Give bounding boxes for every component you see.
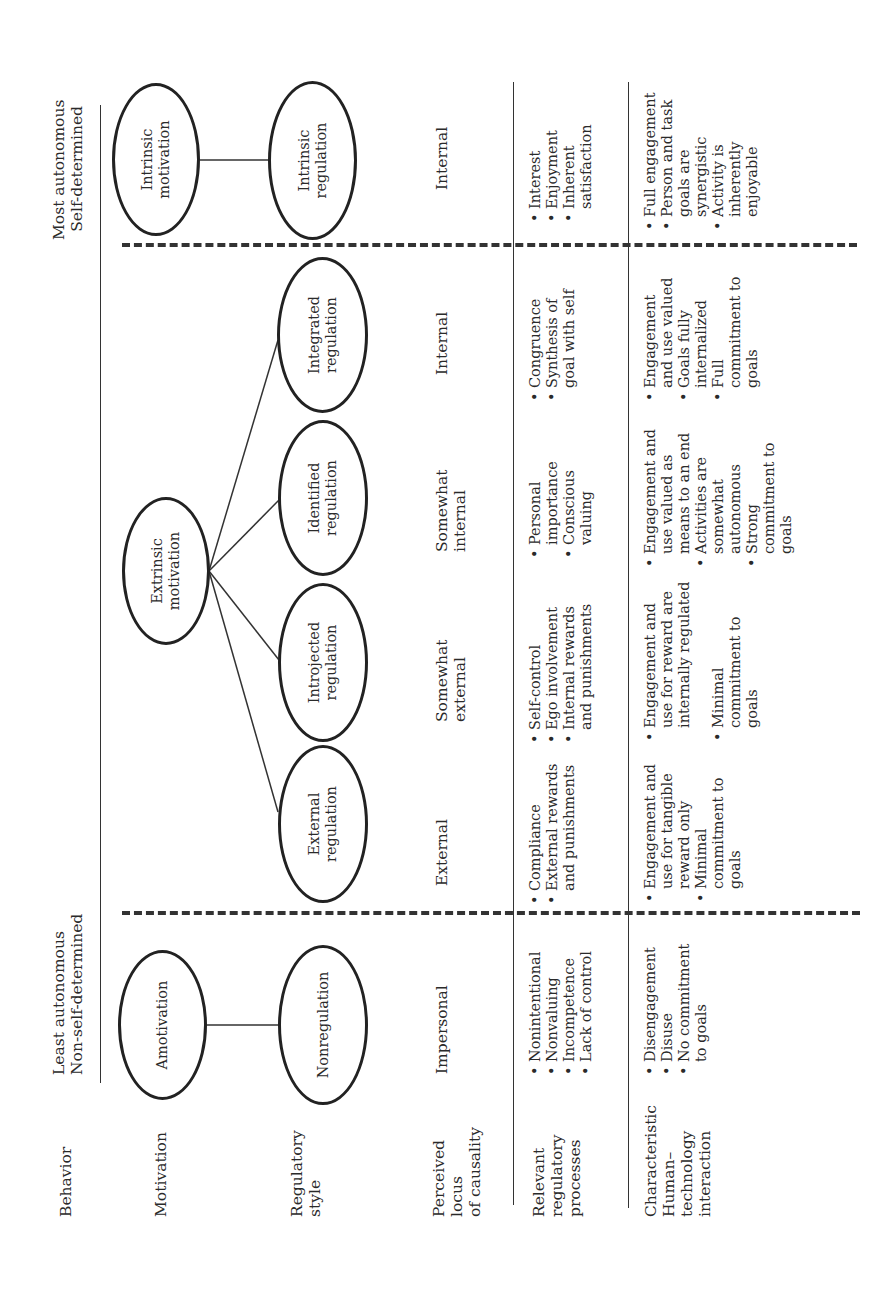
least-autonomous-label: Least autonomous bbox=[50, 914, 68, 1075]
most-autonomous-title: Most autonomous Self-determined bbox=[50, 106, 86, 240]
least-autonomous-title: Least autonomous Non-self-determined bbox=[50, 914, 86, 1075]
locus-internal-integrated: Internal bbox=[433, 312, 451, 375]
ellipse-introjected-regulation: Introjected regulation bbox=[278, 583, 368, 742]
list-item: Goals fully internalized bbox=[676, 277, 710, 402]
list-item: Engagement and use valued as means to an… bbox=[642, 429, 693, 568]
row-label-motivation: Motivation bbox=[152, 1132, 170, 1217]
row-label-regulatory-style: Regulatory style bbox=[288, 1130, 324, 1217]
list-item: Full commitment to goals bbox=[710, 277, 761, 402]
list-item: Full engagement bbox=[642, 93, 659, 232]
list-item: Congruence bbox=[527, 289, 544, 402]
list-item: Compliance bbox=[527, 763, 544, 905]
interaction-intrinsic: Full engagement Person and task goals ar… bbox=[642, 93, 761, 232]
row-label-behavior: Behavior bbox=[57, 1147, 75, 1217]
ellipse-identified-regulation: Identified regulation bbox=[278, 420, 368, 576]
list-item: Personal importance bbox=[527, 461, 561, 559]
ellipse-extrinsic-motivation: Extrinsic motivation bbox=[122, 497, 210, 645]
processes-external: Compliance External rewards and punishme… bbox=[527, 763, 578, 905]
dashed-separator-amotivation-extrinsic bbox=[122, 911, 860, 915]
list-item: Disengagement bbox=[642, 944, 659, 1076]
introjected-regulation-label: Introjected regulation bbox=[306, 622, 340, 703]
ellipse-external-regulation: External regulation bbox=[278, 745, 368, 903]
interaction-introjected: Engagement and use for reward are intern… bbox=[642, 582, 761, 742]
list-item: Nonvaluing bbox=[544, 951, 561, 1076]
list-item: Internal rewards and punishments bbox=[561, 604, 595, 744]
list-item: Lack of control bbox=[578, 951, 595, 1076]
processes-nonregulation: Nonintentional Nonvaluing Incompetence L… bbox=[527, 951, 595, 1076]
list-item: External rewards and punishments bbox=[544, 763, 578, 905]
list-item: Person and task goals are synergistic bbox=[659, 93, 710, 232]
interaction-external: Engagement and use for tangible reward o… bbox=[642, 764, 744, 903]
list-item: Ego involvement bbox=[544, 604, 561, 744]
ellipse-integrated-regulation: Integrated regulation bbox=[277, 257, 368, 413]
list-item: Self-control bbox=[527, 604, 544, 744]
row-divider-processes bbox=[513, 82, 514, 1205]
intrinsic-regulation-label: Intrinsic regulation bbox=[296, 123, 330, 199]
list-item: Interest bbox=[527, 124, 544, 223]
list-item: No commitment to goals bbox=[676, 944, 710, 1076]
ellipse-amotivation: Amotivation bbox=[118, 950, 207, 1100]
interaction-identified: Engagement and use valued as means to an… bbox=[642, 429, 795, 568]
dashed-separator-extrinsic-intrinsic bbox=[122, 243, 857, 247]
list-item: Activity is inherently enjoyable bbox=[710, 93, 761, 232]
processes-integrated: Congruence Synthesis of goal with self bbox=[527, 289, 578, 402]
list-item: Engagement and use valued bbox=[642, 277, 676, 402]
amotivation-label: Amotivation bbox=[154, 981, 171, 1070]
interaction-nonregulation: Disengagement Disuse No commitment to go… bbox=[642, 944, 710, 1076]
processes-identified: Personal importance Conscious valuing bbox=[527, 461, 595, 559]
row-divider-interaction bbox=[628, 82, 629, 1208]
list-item: Conscious valuing bbox=[561, 461, 595, 559]
locus-external: External bbox=[433, 819, 451, 886]
interaction-integrated: Engagement and use valued Goals fully in… bbox=[642, 277, 761, 402]
intrinsic-motivation-label: Intrinsic motivation bbox=[139, 120, 173, 198]
extrinsic-motivation-label: Extrinsic motivation bbox=[149, 532, 183, 610]
list-item: Engagement and use for reward are intern… bbox=[642, 582, 693, 742]
most-autonomous-label: Most autonomous bbox=[50, 106, 68, 240]
list-item: Incompetence bbox=[561, 951, 578, 1076]
list-item: Disuse bbox=[659, 944, 676, 1076]
ellipse-intrinsic-motivation: Intrinsic motivation bbox=[112, 83, 200, 236]
processes-introjected: Self-control Ego involvement Internal re… bbox=[527, 604, 595, 744]
list-item: Nonintentional bbox=[527, 951, 544, 1076]
self-determined-label: Self-determined bbox=[68, 106, 86, 240]
nonregulation-label: Nonregulation bbox=[315, 972, 332, 1079]
row-label-characteristic-interaction: Characteristic Human– technology interac… bbox=[642, 1105, 714, 1217]
header-underline bbox=[100, 105, 101, 1083]
list-item: Enjoyment bbox=[544, 124, 561, 223]
integrated-regulation-label: Integrated regulation bbox=[306, 296, 340, 374]
processes-intrinsic: Interest Enjoyment Inherent satisfaction bbox=[527, 124, 595, 223]
identified-regulation-label: Identified regulation bbox=[306, 460, 340, 536]
list-item: Synthesis of goal with self bbox=[544, 289, 578, 402]
external-regulation-label: External regulation bbox=[306, 786, 340, 862]
locus-internal-intrinsic: Internal bbox=[433, 127, 451, 190]
self-determination-continuum-diagram: Least autonomous Non-self-determined Mos… bbox=[0, 0, 885, 1302]
row-label-relevant-processes: Relevant regulatory processes bbox=[530, 1135, 584, 1217]
non-self-determined-label: Non-self-determined bbox=[68, 914, 86, 1075]
ellipse-intrinsic-regulation: Intrinsic regulation bbox=[268, 81, 357, 240]
locus-somewhat-external: Somewhat external bbox=[433, 639, 469, 722]
list-item: Strong commitment to goals bbox=[744, 429, 795, 568]
list-item: Inherent satisfaction bbox=[561, 124, 595, 223]
locus-impersonal: Impersonal bbox=[433, 985, 451, 1074]
locus-somewhat-internal: Somewhat internal bbox=[433, 469, 469, 552]
extrinsic-to-introjected-connector bbox=[209, 571, 279, 660]
list-item: Minimal commitment to goals bbox=[693, 764, 744, 903]
list-item: Minimal commitment to goals bbox=[710, 582, 761, 742]
row-label-perceived-locus: Perceived locus of causality bbox=[430, 1127, 484, 1217]
extrinsic-to-external-connector bbox=[209, 571, 278, 812]
list-item: Engagement and use for tangible reward o… bbox=[642, 764, 693, 903]
ellipse-nonregulation: Nonregulation bbox=[278, 945, 368, 1105]
list-item: Activities are somewhat autonomous bbox=[693, 429, 744, 568]
